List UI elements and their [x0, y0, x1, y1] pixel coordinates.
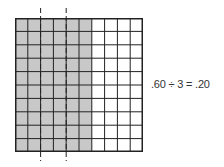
- equation-label: .60 ÷ 3 = .20: [151, 78, 210, 90]
